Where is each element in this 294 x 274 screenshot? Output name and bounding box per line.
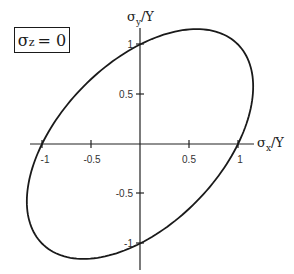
- subscript-z: z: [29, 36, 35, 49]
- x-tick-label: 0.5: [182, 154, 196, 165]
- x-tick-label: 1: [237, 154, 243, 165]
- condition-label-box: σz= 0: [14, 27, 70, 53]
- x-tick-label: -0.5: [83, 154, 101, 165]
- y-tick-label: 0.5: [119, 89, 133, 100]
- equals-zero: = 0: [38, 31, 67, 50]
- y-tick-label: -0.5: [116, 188, 134, 199]
- sigma-symbol: σ: [18, 31, 29, 50]
- y-axis-label: σy/Y: [127, 9, 154, 27]
- x-axis-label: σx/Y: [257, 135, 284, 153]
- x-tick-label: -1: [41, 154, 50, 165]
